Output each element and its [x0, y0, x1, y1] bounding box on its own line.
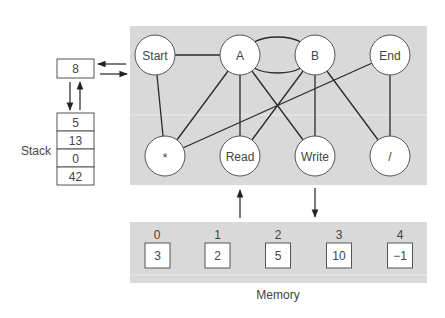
node-start-label: Start: [142, 49, 168, 63]
node-mul: *: [145, 136, 185, 176]
memory: 0 3 1 2 2 5 3 10 4 −1 Memory: [130, 222, 427, 302]
stack-cell-value: 0: [72, 152, 79, 166]
node-write: Write: [295, 136, 335, 176]
node-start: Start: [135, 35, 175, 75]
graph-panel: Start A B End * Read Write /: [130, 26, 427, 185]
node-end-label: End: [379, 49, 400, 63]
memory-value: 3: [154, 249, 161, 263]
node-a-label: A: [236, 49, 244, 63]
node-read-label: Read: [226, 150, 255, 164]
machine-diagram: Start A B End * Read Write /: [0, 0, 445, 318]
memory-value: 2: [214, 249, 221, 263]
register-value: 8: [72, 62, 79, 76]
memory-value: −1: [393, 249, 407, 263]
register-graph-arrows: [98, 64, 127, 74]
stack-cell-value: 13: [69, 134, 83, 148]
node-write-label: Write: [301, 150, 329, 164]
register: 8: [57, 59, 94, 78]
memory-value: 10: [332, 249, 346, 263]
node-mul-label: *: [163, 151, 168, 165]
memory-address: 1: [214, 228, 221, 242]
stack-cell-value: 5: [72, 116, 79, 130]
node-a: A: [220, 35, 260, 75]
memory-address: 0: [154, 228, 161, 242]
memory-value: 5: [275, 249, 282, 263]
memory-address: 4: [397, 228, 404, 242]
node-b: B: [295, 35, 335, 75]
memory-label: Memory: [256, 288, 299, 302]
stack: Stack 5 13 0 42: [21, 113, 94, 185]
memory-address: 3: [336, 228, 343, 242]
graph-memory-arrows: [240, 188, 315, 218]
stack-label: Stack: [21, 144, 52, 158]
node-read: Read: [220, 136, 260, 176]
memory-address: 2: [275, 228, 282, 242]
register-stack-arrows: [70, 82, 80, 110]
stack-cell-value: 42: [69, 170, 83, 184]
node-end: End: [370, 35, 410, 75]
node-b-label: B: [311, 49, 319, 63]
node-div: /: [370, 136, 410, 176]
